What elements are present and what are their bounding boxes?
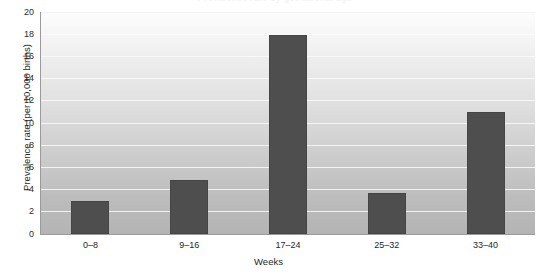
x-axis-title: Weeks bbox=[0, 256, 537, 267]
gridline bbox=[41, 12, 535, 13]
x-axis-tick-label: 33–40 bbox=[446, 240, 526, 250]
bar-33-40 bbox=[467, 112, 505, 234]
bar-chart-figure: Prevalence rate by gestational age 02468… bbox=[0, 0, 537, 275]
plot-area bbox=[41, 12, 535, 234]
y-axis-tick-label: 0 bbox=[10, 230, 34, 239]
bar-9-16 bbox=[170, 180, 208, 234]
bar-25-32 bbox=[368, 193, 406, 234]
x-axis-line bbox=[41, 234, 535, 235]
bar-0-8 bbox=[71, 201, 109, 234]
x-axis-tick-label: 17–24 bbox=[248, 240, 328, 250]
x-axis-tick-label: 0–8 bbox=[50, 240, 130, 250]
x-axis-tick-label: 25–32 bbox=[347, 240, 427, 250]
y-axis-tick-labels: 02468101214161820 bbox=[0, 0, 38, 275]
y-axis-line bbox=[40, 12, 41, 235]
chart-title-clipped: Prevalence rate by gestational age bbox=[110, 0, 440, 3]
bar-17-24 bbox=[269, 35, 307, 234]
x-axis-tick-label: 9–16 bbox=[149, 240, 229, 250]
y-axis-title: Prevalence rate (per 10,000 births) bbox=[21, 8, 32, 228]
